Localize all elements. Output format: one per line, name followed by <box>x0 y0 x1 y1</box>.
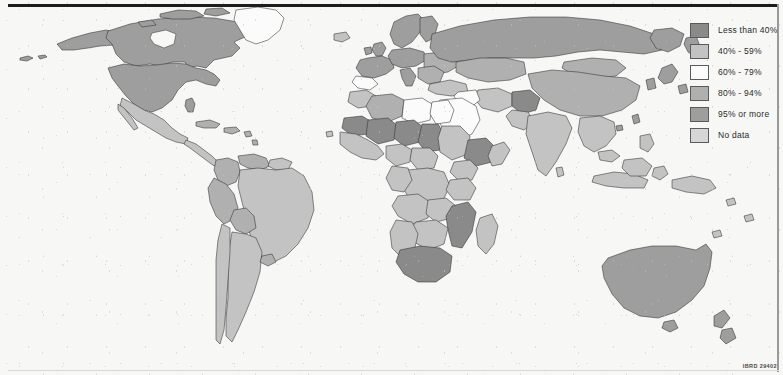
legend-label-95plus: 95% or more <box>718 109 769 119</box>
legend-item-40-59[interactable]: 40% - 59% <box>690 41 783 61</box>
legend-label-lt40: Less than 40% <box>718 25 777 35</box>
world-map-svg[interactable]: .ct{stroke:#2f2f2f;stroke-width:.55;stro… <box>0 0 783 375</box>
legend-label-40-59: 40% - 59% <box>718 46 762 56</box>
map-legend: Less than 40% 40% - 59% 60% - 79% 80% - … <box>690 20 783 146</box>
legend-item-nodata[interactable]: No data <box>690 125 783 145</box>
map-id-label: IBRD 29402 <box>743 363 777 369</box>
legend-item-lt40[interactable]: Less than 40% <box>690 20 783 40</box>
region-libya[interactable] <box>402 98 432 124</box>
frame-bottom-border <box>8 370 779 371</box>
legend-item-80-94[interactable]: 80% - 94% <box>690 83 783 103</box>
legend-item-95plus[interactable]: 95% or more <box>690 104 783 124</box>
world-map[interactable]: .ct{stroke:#2f2f2f;stroke-width:.55;stro… <box>0 0 783 375</box>
legend-label-nodata: No data <box>718 130 750 140</box>
frame-top-border <box>8 4 779 7</box>
region-hainan[interactable] <box>616 125 623 131</box>
legend-swatch-60-79 <box>690 65 709 80</box>
legend-swatch-95plus <box>690 107 709 122</box>
map-page: .ct{stroke:#2f2f2f;stroke-width:.55;stro… <box>0 0 783 375</box>
legend-label-80-94: 80% - 94% <box>718 88 762 98</box>
legend-swatch-40-59 <box>690 44 709 59</box>
region-korea[interactable] <box>646 78 656 90</box>
region-cape-verde[interactable] <box>326 131 333 137</box>
region-algeria[interactable] <box>366 94 404 122</box>
region-egypt[interactable] <box>430 100 454 124</box>
legend-swatch-nodata <box>690 128 709 143</box>
legend-label-60-79: 60% - 79% <box>718 67 762 77</box>
legend-item-60-79[interactable]: 60% - 79% <box>690 62 783 82</box>
legend-swatch-lt40 <box>690 23 709 38</box>
legend-swatch-80-94 <box>690 86 709 101</box>
